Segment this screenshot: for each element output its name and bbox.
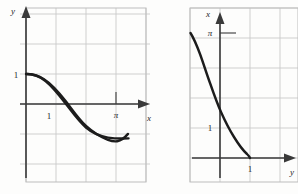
right-x-axis-label: x	[205, 9, 210, 19]
right-y-tick-label-1: 1	[208, 123, 213, 133]
right-y-axis-label: y	[289, 167, 294, 177]
right-x-tick-label-1: 1	[248, 164, 253, 174]
two-plot-figure: y 1 1 π x	[0, 0, 298, 194]
right-y-tick-label-pi: π	[208, 28, 213, 38]
right-plot-gridlines	[190, 8, 298, 182]
right-y-axis-arrowhead	[284, 154, 296, 163]
right-x-axis-arrowhead	[216, 12, 225, 24]
right-plot-arccosine: x π 1 1 y	[0, 0, 298, 194]
